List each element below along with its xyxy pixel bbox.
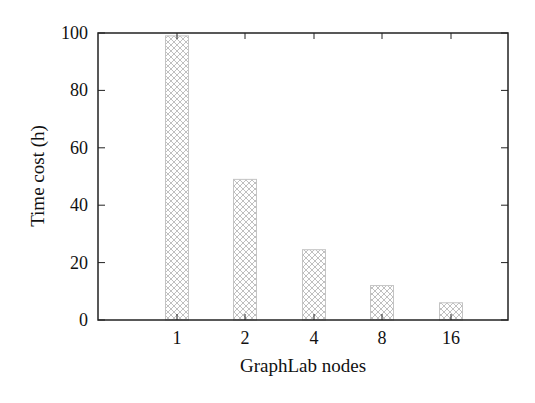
bars-group	[166, 36, 463, 320]
y-tick-label: 100	[61, 23, 88, 43]
y-tick-label: 60	[70, 138, 88, 158]
x-axis-label: GraphLab nodes	[240, 355, 366, 376]
y-axis-label: Time cost (h)	[27, 125, 49, 227]
bar-chart: 020406080100 124816 GraphLab nodes Time …	[0, 0, 535, 403]
x-tick-label: 16	[442, 328, 460, 348]
bar-2	[234, 179, 257, 320]
y-tick-label: 80	[70, 80, 88, 100]
x-tick-label: 1	[173, 328, 182, 348]
y-tick-label: 20	[70, 253, 88, 273]
y-tick-label: 40	[70, 195, 88, 215]
x-tick-label: 8	[378, 328, 387, 348]
x-tick-label: 2	[241, 328, 250, 348]
x-tick-label: 4	[310, 328, 319, 348]
bar-4	[303, 250, 326, 320]
bar-1	[166, 36, 189, 320]
y-tick-label: 0	[79, 310, 88, 330]
y-axis-ticks: 020406080100	[61, 23, 508, 330]
